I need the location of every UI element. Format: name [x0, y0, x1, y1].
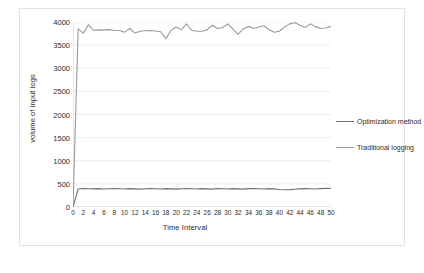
x-axis-tick-label: 44 [296, 209, 303, 216]
legend-item-optimization-method: Optimization method [336, 117, 424, 126]
x-axis-tick-label: 36 [255, 209, 262, 216]
legend-item-label: Optimization method [357, 118, 421, 125]
gridlines [73, 22, 331, 184]
x-axis-tick-label: 18 [162, 209, 169, 216]
x-axis-tick-label: 40 [276, 209, 283, 216]
y-axis-tick-label: 1500 [30, 133, 70, 142]
chart-frame: volume of input logs Time Interval 05001… [19, 8, 405, 246]
x-axis-tick-label: 34 [245, 209, 252, 216]
x-axis-tick-label: 2 [82, 209, 86, 216]
y-axis-tick-label: 2000 [30, 110, 70, 119]
x-axis-title: Time Interval [60, 223, 310, 232]
x-axis-tick-label: 6 [102, 209, 106, 216]
data-series-line [73, 188, 331, 207]
x-axis-tick-label: 24 [193, 209, 200, 216]
x-axis-tick-label: 28 [214, 209, 221, 216]
x-axis-tick-label: 48 [317, 209, 324, 216]
x-axis-tick-label: 4 [92, 209, 96, 216]
chart-legend: Optimization method Traditional logging [336, 117, 424, 169]
x-axis-tick-label: 46 [307, 209, 314, 216]
y-axis-tick-label: 3500 [30, 41, 70, 50]
x-axis-tick-label: 12 [131, 209, 138, 216]
y-axis-tick-label: 3000 [30, 64, 70, 73]
x-axis-tick-label: 8 [112, 209, 116, 216]
x-axis-tick-label: 26 [204, 209, 211, 216]
x-axis-tick-label: 50 [327, 209, 334, 216]
x-axis-tick-label: 16 [152, 209, 159, 216]
x-axis-tick-labels: 0246810121416182022242628303234363840424… [73, 209, 331, 221]
x-axis-tick-label: 38 [266, 209, 273, 216]
x-axis-tick-label: 32 [235, 209, 242, 216]
x-axis-tick-label: 14 [142, 209, 149, 216]
legend-line-swatch [336, 147, 354, 148]
chart-canvas [73, 22, 331, 207]
y-axis-tick-label: 500 [30, 179, 70, 188]
legend-item-traditional-logging: Traditional logging [336, 143, 424, 152]
x-axis-tick-label: 10 [121, 209, 128, 216]
legend-item-label: Traditional logging [357, 144, 414, 151]
x-axis-tick-label: 30 [224, 209, 231, 216]
x-axis-tick-label: 20 [173, 209, 180, 216]
x-axis-tick-label: 0 [71, 209, 75, 216]
y-axis-tick-label: 2500 [30, 87, 70, 96]
x-axis-tick-label: 22 [183, 209, 190, 216]
x-axis-tick-label: 42 [286, 209, 293, 216]
y-axis-tick-label: 1000 [30, 156, 70, 165]
y-axis-tick-labels: 05001000150020002500300035004000 [30, 22, 70, 207]
legend-line-swatch [336, 121, 354, 122]
y-axis-tick-label: 0 [30, 203, 70, 212]
y-axis-tick-label: 4000 [30, 18, 70, 27]
